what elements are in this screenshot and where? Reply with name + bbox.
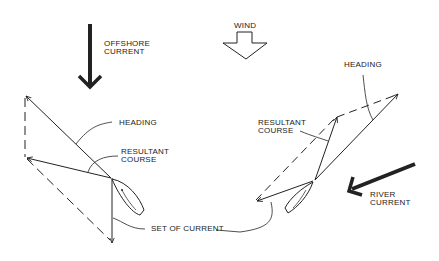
sailboat-hull-icon-left	[112, 179, 144, 215]
set-of-current-label: SET OF CURRENT	[151, 225, 224, 233]
offshore-current-label-line2: CURRENT	[104, 48, 145, 56]
current-vector-diagram	[0, 0, 439, 261]
right-resultant-course-label-line2: COURSE	[258, 127, 293, 135]
wind-label: WIND	[234, 22, 256, 30]
offshore-current-arrow-icon	[79, 24, 101, 87]
sailboat-hull-icon-right	[285, 182, 313, 213]
right-vector-triangle	[216, 75, 398, 232]
river-current-label-line2: CURRENT	[370, 199, 411, 207]
right-heading-label: HEADING	[344, 61, 382, 69]
left-resultant-course-label-line2: COURSE	[121, 156, 156, 164]
wind-arrow-icon	[223, 32, 267, 59]
left-heading-label: HEADING	[119, 119, 157, 127]
